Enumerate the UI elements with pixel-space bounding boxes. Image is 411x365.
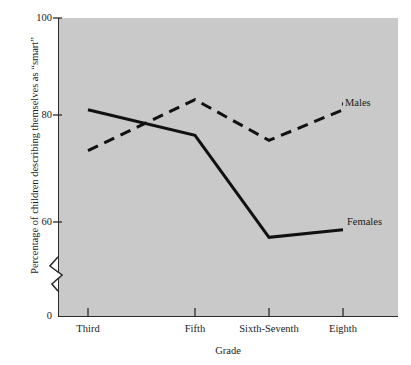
y-axis-title: Percentage of children describing themse… — [29, 26, 40, 286]
x-tick-label-third: Third — [48, 324, 128, 335]
chart-figure: 100 80 60 0 Third Fifth Sixth-Seventh Ei… — [0, 0, 411, 365]
plot-area — [58, 18, 398, 317]
x-axis-title: Grade — [58, 345, 398, 356]
series-label-females: Females — [347, 216, 382, 227]
y-tick-label-0: 0 — [18, 311, 52, 322]
series-label-males: Males — [345, 97, 371, 108]
x-tick-label-eighth: Eighth — [303, 324, 383, 335]
y-tick-label-100: 100 — [18, 13, 52, 24]
